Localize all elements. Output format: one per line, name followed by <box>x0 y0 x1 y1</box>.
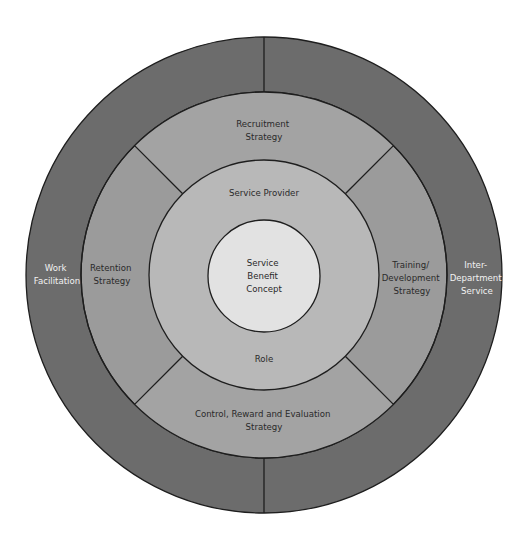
service-diagram: Work Facilitation Inter- Department Serv… <box>0 0 523 539</box>
label-role: Role <box>255 354 274 364</box>
label-service-provider: Service Provider <box>229 188 299 198</box>
label-service-benefit-concept: Service Benefit Concept <box>246 258 282 294</box>
